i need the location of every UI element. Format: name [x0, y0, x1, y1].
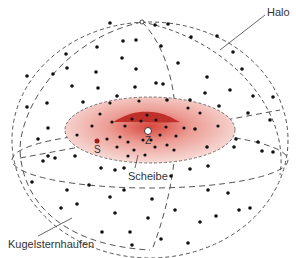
- pole-marker: [140, 20, 144, 24]
- galactic-center-marker: [145, 128, 152, 135]
- halo-label: Halo: [267, 6, 290, 18]
- center-label: Z: [145, 135, 151, 146]
- disk-label: Scheibe: [128, 170, 168, 182]
- sun-label: S: [94, 144, 101, 155]
- halo-leader-line: [220, 15, 265, 50]
- clusters-leader-line: [38, 218, 72, 236]
- sun-marker: [95, 139, 100, 144]
- galaxy-diagram: [0, 0, 296, 258]
- globular-clusters-label: Kugelsternhaufen: [8, 238, 94, 250]
